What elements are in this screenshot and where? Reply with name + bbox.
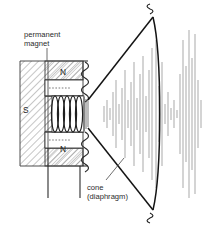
label-cone: cone (diaphragm) bbox=[87, 183, 128, 202]
sound-waves bbox=[104, 30, 201, 198]
label-cone-line1: cone bbox=[87, 183, 128, 192]
coil-neck-striping bbox=[84, 97, 88, 131]
pole-label-south-middle: S bbox=[23, 105, 29, 115]
label-cone-line2: (diaphragm) bbox=[87, 192, 128, 201]
air-gap-top bbox=[45, 80, 83, 96]
pole-label-north-bottom: N bbox=[60, 144, 66, 154]
pole-label-north-top: N bbox=[60, 67, 66, 77]
label-permanent-magnet-line1: permanent bbox=[24, 30, 60, 39]
loudspeaker-diagram: permanent magnet cone (diaphragm) N S N bbox=[0, 0, 202, 228]
label-permanent-magnet-line2: magnet bbox=[24, 39, 60, 48]
label-permanent-magnet: permanent magnet bbox=[24, 30, 60, 49]
coil-former bbox=[52, 96, 84, 132]
voice-coil bbox=[51, 96, 88, 132]
